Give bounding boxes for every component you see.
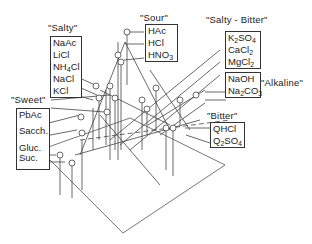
group-label-alkaline: "Alkaline" xyxy=(261,77,303,88)
stimulus-suc: Suc. xyxy=(19,153,47,163)
group-label-salty: "Salty" xyxy=(48,22,77,33)
stimulus-pbac: PbAc xyxy=(19,109,47,121)
stimulus-q2so4: Q2SO4 xyxy=(213,135,242,147)
group-label-sweet: "Sweet" xyxy=(11,94,46,105)
alkaline-box: NaOH Na2CO3 xyxy=(225,72,261,98)
group-label-salty-bitter: "Salty - Bitter" xyxy=(206,14,268,25)
sour-box: HAc HCl HNO3 xyxy=(145,24,178,62)
group-label-bitter: "Bitter" xyxy=(207,110,238,121)
salty-box: NaAc LiCl NH4Cl NaCl KCl xyxy=(50,36,82,98)
stimulus-mgcl2: MgCl2 xyxy=(228,56,258,68)
stimulus-hcl: HCl xyxy=(148,37,175,49)
stimulus-naac: NaAc xyxy=(53,37,79,49)
stimulus-sacch: Sacch. xyxy=(19,125,47,137)
stimulus-na2co3: Na2CO3 xyxy=(228,85,258,97)
group-label-sour: "Sour" xyxy=(140,12,168,23)
stimulus-cacl2: CaCl2 xyxy=(228,44,258,56)
stimulus-nacl: NaCl xyxy=(53,73,79,85)
base-plane xyxy=(40,118,225,233)
stimulus-k2so4: K2SO4 xyxy=(228,32,258,44)
stimulus-hac: HAc xyxy=(148,25,175,37)
stimulus-hno3: HNO3 xyxy=(148,49,175,61)
sweet-box: PbAc Sacch. Gluc. Suc. xyxy=(16,108,50,170)
stimulus-licl: LiCl xyxy=(53,49,79,61)
stimulus-kcl: KCl xyxy=(53,85,79,97)
stimulus-nh4cl: NH4Cl xyxy=(53,61,79,73)
stimulus-qhcl: QHCl xyxy=(213,123,242,135)
salty-bitter-box: K2SO4 CaCl2 MgCl2 xyxy=(225,31,261,69)
bitter-box: QHCl Q2SO4 xyxy=(210,122,245,148)
stimulus-naoh: NaOH xyxy=(228,73,258,85)
